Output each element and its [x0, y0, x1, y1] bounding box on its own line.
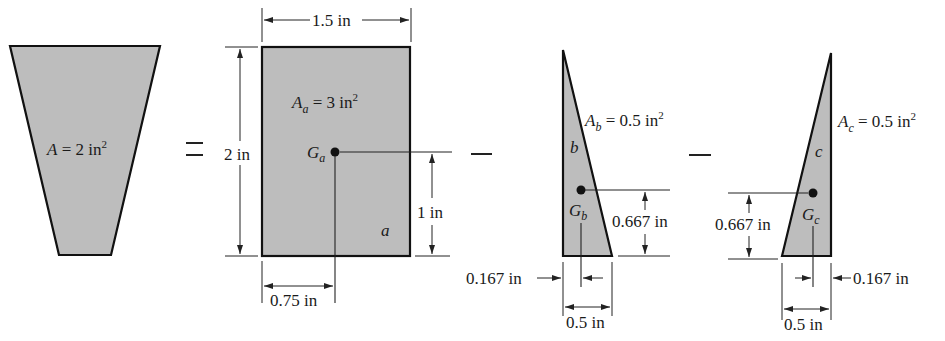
composite-trapezoid: A = 2 in2 [10, 46, 160, 255]
rectangle-a: 1.5 in 2 in Aa = 3 in2 Ga 1 in 0.75 in a [224, 8, 452, 310]
triangle-c-shape [782, 53, 831, 256]
height-dimension-label: 2 in [224, 145, 250, 164]
composite-area-label: A = 2 in2 [46, 138, 107, 159]
composite-area-diagram: A = 2 in2 1.5 in 2 in Aa = 3 in2 Ga 1 in [0, 0, 945, 341]
centroid-c-dot [809, 189, 818, 198]
part-a-label: a [381, 221, 390, 240]
tri-c-area-label: Ac = 0.5 in2 [837, 110, 916, 135]
triangle-b: Ab = 0.5 in2 b Gb 0.667 in 0.167 in 0.5 … [466, 50, 670, 332]
centroid-b-dot [577, 186, 586, 195]
centroid-x-dimension-label: 0.75 in [270, 291, 318, 310]
tri-b-centroid-y-dimension-label: 0.667 in [612, 212, 668, 231]
centroid-y-dimension-label: 1 in [417, 203, 443, 222]
tri-b-base-dimension-label: 0.5 in [566, 313, 605, 332]
tri-c-base-dimension-label: 0.5 in [784, 315, 823, 334]
tri-c-centroid-x-dimension-label: 0.167 in [853, 269, 909, 288]
tri-b-area-label: Ab = 0.5 in2 [584, 109, 664, 134]
part-c-label: c [815, 142, 823, 161]
triangle-c: Ac = 0.5 in2 c Gc 0.667 in 0.167 in 0.5 … [715, 53, 916, 334]
centroid-a-dot [331, 148, 340, 157]
equals-operator [186, 143, 203, 155]
width-dimension-label: 1.5 in [312, 11, 351, 30]
tri-b-centroid-x-dimension-label: 0.167 in [466, 269, 522, 288]
part-b-label: b [570, 138, 579, 157]
tri-c-centroid-y-dimension-label: 0.667 in [715, 215, 771, 234]
